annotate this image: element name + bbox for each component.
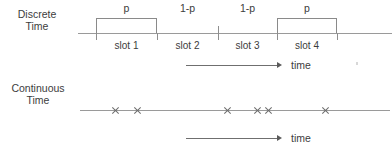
- slot-label-2: slot 2: [157, 40, 218, 51]
- continuous-time-axis-line: [80, 110, 390, 111]
- discrete-time-arrow: [186, 60, 286, 71]
- discrete-time-label-line1: Discrete: [4, 8, 70, 20]
- discrete-time-label-line2: Time: [4, 20, 70, 32]
- arrival-marker-4: [253, 106, 262, 115]
- discrete-time-axis-caption: time: [291, 60, 311, 71]
- arrival-marker-1: [111, 106, 120, 115]
- slot-label-4: slot 4: [277, 40, 337, 51]
- continuous-time-row-label: Continuous Time: [0, 82, 76, 106]
- probability-label-slot-4: p: [277, 3, 337, 14]
- continuous-time-arrow-line: [186, 138, 277, 139]
- slot-label-3: slot 3: [218, 40, 277, 51]
- continuous-time-label-line1: Continuous: [0, 82, 76, 94]
- figure-canvas: Discrete Time p 1-p 1-p p slot 1 slot 2 …: [0, 0, 392, 150]
- slot-boundary-tick-4: [337, 33, 338, 40]
- discrete-time-row-label: Discrete Time: [4, 8, 70, 32]
- probability-label-slot-3: 1-p: [218, 3, 277, 14]
- scan-speck-1: [356, 62, 358, 65]
- slot-boundary-tick-1: [157, 33, 158, 40]
- discrete-time-arrow-head-icon: [277, 62, 282, 68]
- continuous-time-axis-caption: time: [291, 133, 311, 144]
- slot-boundary-tick-3: [277, 33, 278, 40]
- probability-label-slot-2: 1-p: [157, 3, 218, 14]
- arrival-marker-5: [264, 106, 273, 115]
- slot-label-1: slot 1: [96, 40, 157, 51]
- arrival-marker-2: [133, 106, 142, 115]
- continuous-time-arrow-head-icon: [277, 135, 282, 141]
- continuous-time-arrow: [186, 133, 286, 144]
- slot-boundary-tick-2: [218, 26, 219, 40]
- arrival-box-slot-1: [96, 18, 157, 34]
- arrival-box-slot-4: [277, 18, 337, 34]
- slot-boundary-tick-0: [96, 33, 97, 40]
- discrete-time-arrow-line: [186, 65, 277, 66]
- probability-label-slot-1: p: [96, 3, 157, 14]
- arrival-marker-3: [223, 106, 232, 115]
- discrete-time-axis-line: [78, 33, 392, 34]
- arrival-marker-6: [321, 106, 330, 115]
- continuous-time-label-line2: Time: [0, 94, 76, 106]
